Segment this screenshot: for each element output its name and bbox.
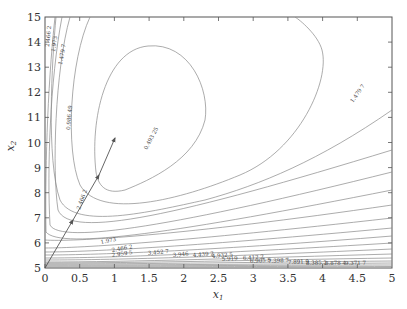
plot-area (45, 17, 392, 268)
svg-text:4: 4 (319, 272, 326, 285)
y-tick-labels: 5 6 7 8 9 10 11 12 13 14 15 (27, 11, 41, 275)
svg-text:6: 6 (34, 237, 41, 250)
svg-text:0.5: 0.5 (71, 272, 89, 285)
y-axis-label: x2 (4, 140, 18, 151)
svg-text:10: 10 (27, 137, 41, 150)
svg-text:9.371 7: 9.371 7 (345, 260, 367, 266)
svg-text:0: 0 (42, 272, 49, 285)
svg-text:7.398 7: 7.398 7 (268, 257, 290, 264)
svg-text:7: 7 (34, 212, 41, 225)
svg-text:8.385 2: 8.385 2 (306, 259, 327, 266)
svg-text:8.878 4: 8.878 4 (325, 260, 347, 266)
svg-text:5: 5 (34, 262, 41, 275)
svg-text:11: 11 (27, 111, 41, 124)
svg-text:1.5: 1.5 (140, 272, 158, 285)
svg-text:14: 14 (27, 36, 41, 49)
svg-text:1: 1 (111, 272, 118, 285)
contour-chart: 0.493 25 0.986 49 1.479 7 1.973 2.466 2 … (0, 0, 407, 309)
svg-text:4.5: 4.5 (349, 272, 367, 285)
svg-text:2.5: 2.5 (210, 272, 228, 285)
svg-text:5.919: 5.919 (222, 255, 239, 262)
svg-text:3.5: 3.5 (279, 272, 297, 285)
svg-text:15: 15 (27, 11, 41, 24)
svg-text:9: 9 (34, 162, 41, 175)
svg-text:2: 2 (180, 272, 187, 285)
svg-text:5: 5 (389, 272, 396, 285)
x-axis-label: x1 (213, 288, 224, 302)
svg-text:12: 12 (27, 86, 41, 99)
svg-text:3: 3 (250, 272, 257, 285)
svg-text:13: 13 (27, 61, 41, 74)
svg-text:8: 8 (34, 187, 41, 200)
x-tick-labels: 0 0.5 1 1.5 2 2.5 3 3.5 4 4.5 5 (42, 272, 396, 285)
